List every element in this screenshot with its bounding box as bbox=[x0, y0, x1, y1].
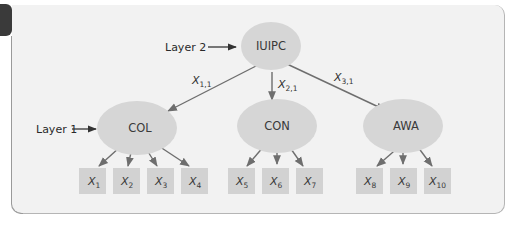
edge-label-col: X1,1 bbox=[191, 74, 212, 89]
node-iuipc: IUIPC bbox=[241, 22, 301, 70]
indicator-box: X2 bbox=[113, 168, 140, 194]
indicator-box: X9 bbox=[390, 168, 417, 194]
indicators-con: X5 X6 X7 bbox=[228, 168, 323, 194]
node-con: CON bbox=[237, 99, 317, 153]
node-col: COL bbox=[97, 101, 177, 155]
edge-label-awa: X3,1 bbox=[333, 71, 354, 86]
factor-model-diagram: Layer 2 Layer 1 X1,1 X2,1 X3,1 IUIPC bbox=[0, 0, 523, 225]
layer2-label: Layer 2 bbox=[165, 41, 206, 54]
layer1-indicator: Layer 1 bbox=[36, 123, 96, 136]
indicators-awa: X8 X9 X10 bbox=[356, 168, 451, 194]
indicator-box: X4 bbox=[181, 168, 208, 194]
layer2-indicator: Layer 2 bbox=[165, 41, 236, 54]
node-awa: AWA bbox=[363, 99, 443, 153]
indicator-box: X6 bbox=[262, 168, 289, 194]
indicator-box: X5 bbox=[228, 168, 255, 194]
node-awa-label: AWA bbox=[393, 119, 419, 133]
edge-iuipc-col bbox=[168, 65, 258, 111]
indicators-col: X1 X2 X3 X4 bbox=[79, 168, 208, 194]
indicator-box: X8 bbox=[356, 168, 383, 194]
node-iuipc-label: IUIPC bbox=[256, 39, 286, 53]
indicator-box: X1 bbox=[79, 168, 106, 194]
indicator-box: X7 bbox=[296, 168, 323, 194]
node-con-label: CON bbox=[264, 119, 290, 133]
indicator-box: X3 bbox=[147, 168, 174, 194]
edge-label-con: X2,1 bbox=[277, 78, 298, 93]
layer1-label: Layer 1 bbox=[36, 123, 77, 136]
node-col-label: COL bbox=[128, 121, 152, 135]
indicator-box: X10 bbox=[424, 168, 451, 194]
